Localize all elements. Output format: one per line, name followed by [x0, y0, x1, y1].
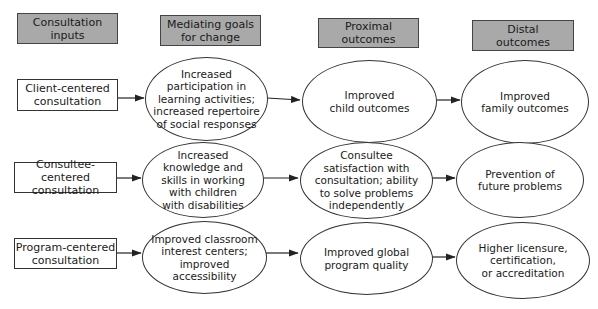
ellipse-text: Consultee satisfaction with consultation… [315, 149, 419, 212]
distal-outcome-consultee: Prevention of future problems [456, 142, 584, 218]
ellipse-text: Increased knowledge and skills in workin… [161, 149, 245, 212]
input-client-centered: Client-centered consultation [17, 79, 118, 111]
mediating-goal-program: Improved classroom interest centers; imp… [142, 221, 267, 294]
ellipse-text: Improved classroom interest centers; imp… [151, 233, 257, 283]
mediating-goal-client: Increased participation in learning acti… [145, 57, 268, 141]
ellipse-text: Increased participation in learning acti… [153, 68, 259, 131]
ellipse-text: Higher licensure, certification, or accr… [479, 242, 568, 280]
distal-outcome-program: Higher licensure, certification, or accr… [456, 222, 590, 299]
ellipse-text: Improved child outcomes [330, 89, 410, 114]
input-label: Client-centered consultation [25, 82, 110, 108]
input-label: Consultee-centered consultation [15, 158, 116, 197]
proximal-outcome-program: Improved global program quality [300, 222, 433, 295]
distal-outcome-client: Improved family outcomes [461, 60, 589, 144]
input-program-centered: Program-centered consultation [14, 238, 117, 269]
mediating-goal-consultee: Increased knowledge and skills in workin… [142, 142, 264, 218]
ellipse-text: Prevention of future problems [478, 168, 562, 193]
proximal-outcome-consultee: Consultee satisfaction with consultation… [300, 142, 433, 219]
ellipse-text: Improved family outcomes [481, 90, 568, 115]
ellipse-text: Improved global program quality [324, 246, 409, 271]
input-consultee-centered: Consultee-centered consultation [14, 162, 117, 193]
input-label: Program-centered consultation [16, 241, 115, 267]
proximal-outcome-client: Improved child outcomes [302, 60, 437, 143]
